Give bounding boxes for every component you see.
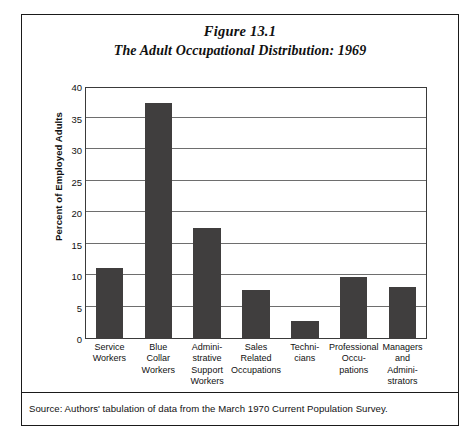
y-axis-tick-label: 5 [54, 302, 82, 313]
bar[interactable] [340, 277, 367, 339]
x-axis-tick-labels: ServiceWorkersBlueCollarWorkersAdmini-st… [85, 342, 427, 404]
bar[interactable] [193, 228, 220, 340]
bar-slot [85, 87, 134, 339]
bar-slot [183, 87, 232, 339]
bar-slot [378, 87, 427, 339]
bars-layer [85, 87, 427, 339]
bar-slot [134, 87, 183, 339]
bar[interactable] [291, 321, 318, 339]
bar-slot [280, 87, 329, 339]
y-axis-tick-labels: 0510152025303540 [54, 87, 82, 339]
source-note: Source: Authors' tabulation of data from… [29, 403, 388, 414]
bar[interactable] [96, 268, 123, 339]
y-axis-tick-label: 15 [54, 239, 82, 250]
y-axis-tick-label: 30 [54, 145, 82, 156]
figure-container: Figure 13.1 The Adult Occupational Distr… [21, 14, 459, 426]
y-axis-tick-label: 20 [54, 208, 82, 219]
y-axis-tick-label: 10 [54, 271, 82, 282]
bar-slot [232, 87, 281, 339]
x-axis-tick-label: ManagersandAdmini-strators [372, 342, 433, 388]
y-axis-tick-label: 40 [54, 82, 82, 93]
y-axis-tick-label: 25 [54, 176, 82, 187]
bar[interactable] [389, 287, 416, 339]
bar-slot [329, 87, 378, 339]
figure-root: Figure 13.1 The Adult Occupational Distr… [0, 0, 476, 441]
y-axis-tick-label: 35 [54, 113, 82, 124]
bar-chart: Percent of Employed Adults 0510152025303… [22, 15, 460, 427]
bar[interactable] [145, 103, 172, 339]
bar[interactable] [242, 290, 269, 339]
source-divider [22, 392, 458, 393]
y-axis-tick-label: 0 [54, 334, 82, 345]
